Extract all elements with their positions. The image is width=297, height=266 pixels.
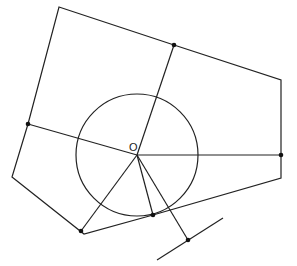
bottom-point	[151, 213, 156, 218]
top-point	[172, 43, 177, 48]
radius-to-bottom	[137, 155, 153, 215]
center-label: O	[129, 141, 138, 153]
radius-to-top	[137, 45, 174, 155]
outer-polygon	[12, 7, 281, 234]
left-point	[26, 122, 31, 127]
right-point	[279, 153, 284, 158]
bottom-left-point	[79, 229, 84, 234]
tangent-point	[186, 238, 191, 243]
geometry-diagram: O	[0, 0, 297, 266]
